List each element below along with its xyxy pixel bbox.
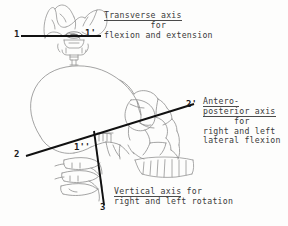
label-vertical-bottom: 3 <box>100 203 105 212</box>
label-ap-right: 2' <box>186 100 197 109</box>
caption-transverse-line1: Transverse axis <box>104 11 182 21</box>
anatomy-figure: 1 1' 2 2' 1'' 3 Transverse axis for flex… <box>0 0 288 226</box>
caption-anteroposterior-axis: Antero- posterior axis for right and lef… <box>203 97 281 146</box>
cervical-vertebrae <box>55 158 102 201</box>
caption-vertical-line3: right and left rotation <box>114 196 233 206</box>
caption-vertical-axis: Vertical axis for right and left rotatio… <box>114 187 233 207</box>
lateral-skull-cranium <box>31 66 151 154</box>
caption-transverse-line3: flexion and extension <box>104 30 213 40</box>
lateral-skull-face-orbit <box>125 91 180 159</box>
maxilla-and-teeth <box>128 145 194 177</box>
caption-vertical-line2: for <box>187 186 203 196</box>
label-transverse-lateral: 1'' <box>74 143 90 152</box>
caption-transverse-axis: Transverse axis for flexion and extensio… <box>104 11 213 40</box>
label-transverse-right: 1' <box>85 29 96 38</box>
caption-ap-line4: right and left <box>203 126 276 136</box>
label-ap-left: 2 <box>14 150 19 159</box>
top-view-skull-base <box>44 5 107 65</box>
caption-ap-line5: lateral flexion <box>203 135 281 145</box>
label-transverse-left: 1 <box>14 30 19 39</box>
anteroposterior-axis-line <box>26 104 194 156</box>
